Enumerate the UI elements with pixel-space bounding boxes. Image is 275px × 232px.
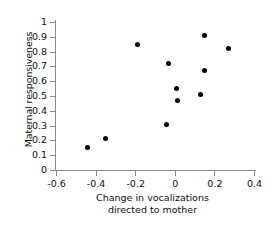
x-tick-label: -0.2 xyxy=(126,178,145,189)
y-tick: 0.4 xyxy=(50,111,55,112)
y-tick-label: 0.7 xyxy=(32,60,50,71)
y-tick-label: 0.2 xyxy=(32,134,50,145)
x-tick-label: -0.4 xyxy=(87,178,106,189)
y-tick-label: 0.6 xyxy=(32,75,50,86)
data-point xyxy=(135,42,140,47)
data-point xyxy=(226,46,231,51)
data-point xyxy=(202,68,207,73)
y-tick: 0 xyxy=(50,170,55,171)
x-tick-label: -0.6 xyxy=(47,178,66,189)
y-tick-label: 1 xyxy=(41,16,50,27)
y-tick: 0.6 xyxy=(50,81,55,82)
data-point xyxy=(175,98,180,103)
x-axis-title: Change in vocalizations directed to moth… xyxy=(40,192,265,216)
data-point xyxy=(202,33,207,38)
x-axis-line xyxy=(55,170,256,171)
x-tick: 0.4 xyxy=(254,171,255,176)
y-tick-label: 0.5 xyxy=(32,90,50,101)
x-tick: 0.2 xyxy=(214,171,215,176)
x-tick: -0.6 xyxy=(56,171,57,176)
y-tick: 0.8 xyxy=(50,52,55,53)
x-tick-label: 0.4 xyxy=(247,178,262,189)
data-point xyxy=(174,86,179,91)
data-point xyxy=(103,136,108,141)
y-tick-label: 0.1 xyxy=(32,149,50,160)
y-tick: 0.1 xyxy=(50,155,55,156)
y-tick-label: 0.4 xyxy=(32,105,50,116)
data-point xyxy=(85,145,90,150)
data-point xyxy=(198,92,203,97)
y-tick-label: 0 xyxy=(41,164,50,175)
y-tick: 0.3 xyxy=(50,126,55,127)
x-tick-label: 0.2 xyxy=(207,178,222,189)
x-axis-title-line-1: Change in vocalizations xyxy=(40,192,265,204)
data-point xyxy=(164,122,169,127)
y-tick-label: 0.9 xyxy=(32,31,50,42)
plot-area xyxy=(56,22,254,170)
x-tick: -0.4 xyxy=(96,171,97,176)
x-tick: -0.2 xyxy=(135,171,136,176)
x-tick-label: 0 xyxy=(172,178,178,189)
y-tick-label: 0.3 xyxy=(32,120,50,131)
data-point xyxy=(166,61,171,66)
y-tick-label: 0.8 xyxy=(32,46,50,57)
y-tick: 0.2 xyxy=(50,140,55,141)
scatter-plot-figure: Maternal responsiveness 00.10.20.30.40.5… xyxy=(0,0,275,232)
x-tick: 0 xyxy=(175,171,176,176)
x-axis-title-line-2: directed to mother xyxy=(40,204,265,216)
y-tick: 1 xyxy=(50,22,55,23)
y-tick: 0.5 xyxy=(50,96,55,97)
y-tick: 0.9 xyxy=(50,37,55,38)
y-tick: 0.7 xyxy=(50,66,55,67)
